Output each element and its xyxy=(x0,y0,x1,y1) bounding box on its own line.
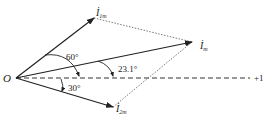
label-i2m: İ2m xyxy=(115,103,127,115)
parallelogram-top-edge xyxy=(94,18,192,42)
origin-label: O xyxy=(3,72,11,84)
phasor-i2m xyxy=(16,78,113,107)
angle-arc-23 xyxy=(98,61,113,76)
phasor-diagram: O +1 İ1m İm İ2m 60° 23.1° 30° xyxy=(0,0,267,119)
axis-label: +1 xyxy=(254,73,264,83)
label-i1m: İ1m xyxy=(95,7,107,19)
angle-label-30: 30° xyxy=(68,83,81,93)
parallelogram-bottom-edge xyxy=(113,42,192,107)
phasor-im xyxy=(16,42,192,78)
angle-label-60: 60° xyxy=(66,52,79,62)
angle-arc-30 xyxy=(61,79,63,91)
angle-label-23: 23.1° xyxy=(118,64,138,74)
phasor-i1m xyxy=(16,18,94,78)
label-im: İm xyxy=(199,40,208,52)
